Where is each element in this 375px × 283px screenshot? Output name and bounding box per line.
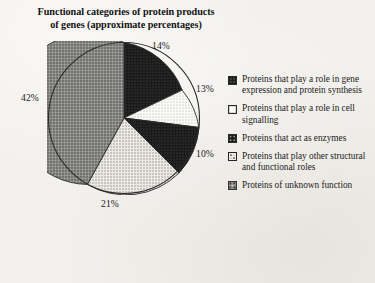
pie-label-42: 42% [21,93,39,103]
white-outline-swatch-icon [228,105,237,114]
light-dotted-swatch-icon [228,152,237,161]
legend-item-structural-functional: Proteins that play other structural and … [228,151,370,174]
pie-chart-figure: Functional categories of protein product… [0,0,375,283]
pie-label-21: 21% [101,199,119,209]
dark-dotted-swatch-icon-2 [228,134,237,143]
chart-legend: Proteins that play a role in gene expres… [228,74,370,198]
legend-label-gene-expression: Proteins that play a role in gene expres… [242,74,370,97]
pie-label-13: 13% [196,84,214,94]
legend-label-enzymes: Proteins that act as enzymes [242,133,346,144]
pie-label-10: 10% [196,149,214,159]
dark-dotted-swatch-icon [228,76,237,85]
title-line-1: Functional categories of protein product… [14,6,238,19]
legend-item-enzymes: Proteins that act as enzymes [228,133,370,144]
legend-label-unknown-function: Proteins of unknown function [242,180,352,191]
pie-chart-svg [47,41,201,195]
pie-chart [47,41,201,195]
legend-label-cell-signalling: Proteins that play a role in cell signal… [242,103,370,126]
page-title: Functional categories of protein product… [14,6,238,31]
title-line-2: of genes (approximate percentages) [14,19,238,32]
pie-label-14: 14% [152,41,170,51]
legend-item-cell-signalling: Proteins that play a role in cell signal… [228,103,370,126]
gray-speckled-swatch-icon [228,181,237,190]
legend-label-structural-functional: Proteins that play other structural and … [242,151,370,174]
legend-item-gene-expression: Proteins that play a role in gene expres… [228,74,370,97]
legend-item-unknown-function: Proteins of unknown function [228,180,370,191]
